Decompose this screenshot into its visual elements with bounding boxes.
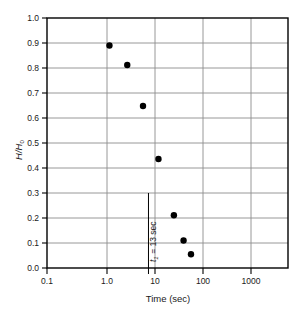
ytick-label-0.0: 0.0 xyxy=(27,263,39,273)
xtick-label-1000: 1000 xyxy=(242,276,261,286)
data-point xyxy=(140,103,146,109)
ytick-label-0.8: 0.8 xyxy=(27,63,39,73)
chart-figure: 1.0 0.9 0.8 0.7 0.6 0.5 0.4 0.3 0.2 0.1 … xyxy=(0,0,303,314)
x-axis-title: Time (sec) xyxy=(146,293,191,304)
scatter-plot-svg: 1.0 0.9 0.8 0.7 0.6 0.5 0.4 0.3 0.2 0.1 … xyxy=(0,0,303,314)
xtick-label-100: 100 xyxy=(196,276,210,286)
ytick-label-1.0: 1.0 xyxy=(27,13,39,23)
data-point xyxy=(188,251,194,257)
data-point xyxy=(155,156,161,162)
figure-background xyxy=(0,0,303,314)
ytick-label-0.6: 0.6 xyxy=(27,113,39,123)
ytick-label-0.5: 0.5 xyxy=(27,138,39,148)
ytick-label-0.9: 0.9 xyxy=(27,38,39,48)
ytick-label-0.3: 0.3 xyxy=(27,188,39,198)
y-axis-title-subscript: 0 xyxy=(18,140,25,144)
ytick-label-0.4: 0.4 xyxy=(27,163,39,173)
data-point xyxy=(124,62,130,68)
xtick-label-1.0: 1.0 xyxy=(101,276,113,286)
data-point xyxy=(180,237,186,243)
ytick-label-0.1: 0.1 xyxy=(27,238,39,248)
ytick-label-0.2: 0.2 xyxy=(27,213,39,223)
t1-annotation-label: t1 = 13 sec xyxy=(148,221,159,262)
xtick-label-10: 10 xyxy=(150,276,160,286)
svg-text:t1 = 13 sec: t1 = 13 sec xyxy=(148,221,159,262)
ytick-label-0.7: 0.7 xyxy=(27,88,39,98)
data-point xyxy=(171,212,177,218)
xtick-label-0.1: 0.1 xyxy=(41,276,53,286)
t1-rest: = 13 sec xyxy=(148,221,158,256)
data-point xyxy=(106,42,112,48)
